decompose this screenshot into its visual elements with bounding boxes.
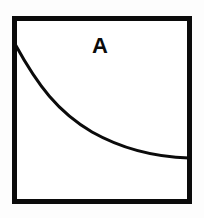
panel-label-a: A: [92, 33, 108, 58]
figure-panel-a: A: [0, 0, 204, 218]
figure-canvas: A: [0, 0, 204, 218]
